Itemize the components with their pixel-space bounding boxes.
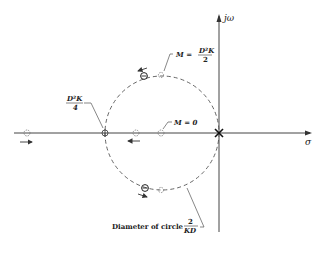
- direction-arrow-icon: [138, 194, 147, 197]
- label-diameter: Diameter of circle 2 KD: [112, 188, 204, 235]
- direction-arrow-icon: [138, 68, 147, 71]
- complex-root-lower-icon: [142, 185, 149, 192]
- svg-text:D²K: D²K: [66, 94, 83, 103]
- label-m-top: M = D²K 2: [164, 46, 215, 71]
- imaginary-axis: [217, 14, 222, 232]
- root-locus-diagram: jω σ M = D²K 2 D²K 4: [0, 0, 323, 253]
- jw-axis-label: jω: [222, 13, 235, 23]
- root-marker-icon: [158, 72, 163, 77]
- svg-text:2: 2: [188, 217, 193, 226]
- label-m-zero: M = 0: [163, 118, 197, 129]
- svg-text:2: 2: [203, 55, 208, 64]
- svg-text:M = 0: M = 0: [173, 118, 197, 127]
- svg-text:Diameter of circle: Diameter of circle: [112, 222, 184, 231]
- complex-root-upper-icon: [141, 73, 148, 80]
- svg-text:4: 4: [73, 103, 78, 112]
- sigma-axis-label: σ: [305, 137, 312, 147]
- svg-text:KD: KD: [183, 226, 197, 235]
- svg-text:M =: M =: [175, 50, 192, 59]
- svg-text:D²K: D²K: [198, 46, 215, 55]
- label-break-in: D²K 4: [66, 94, 103, 128]
